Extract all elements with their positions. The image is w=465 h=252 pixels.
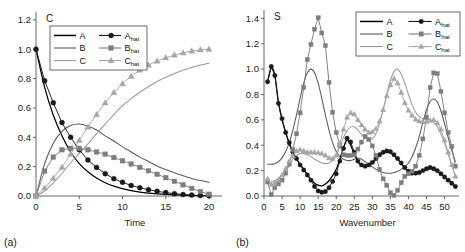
x-tick-label: 5 xyxy=(279,201,284,212)
panel-a-plot: 0.00.20.40.60.81.01.205101520TimeC(a)ABC… xyxy=(0,0,232,252)
y-tick-label: 1.2 xyxy=(18,14,31,25)
chart-panel-a: 0.00.20.40.60.81.01.205101520TimeC(a)ABC… xyxy=(0,0,232,252)
x-tick-label: 15 xyxy=(160,201,171,212)
legend-label-subscript: hat xyxy=(131,35,140,42)
plot-variable-letter: C xyxy=(46,13,53,24)
panel-corner-label: (b) xyxy=(236,236,249,248)
legend-label: A xyxy=(124,31,130,41)
legend-label-subscript: hat xyxy=(131,60,140,67)
y-tick-label: 0.6 xyxy=(246,114,259,125)
y-tick-label: 0.2 xyxy=(18,161,31,172)
legend-label: B xyxy=(387,29,393,39)
legend-label: A xyxy=(435,17,441,27)
legend-label-subscript: hat xyxy=(441,33,450,40)
legend-label: B xyxy=(435,29,441,39)
y-tick-label: 0.2 xyxy=(246,165,259,176)
y-tick-label: 0.0 xyxy=(246,190,259,201)
x-tick-label: 40 xyxy=(403,201,414,212)
x-tick-label: 30 xyxy=(367,201,378,212)
legend: ABCAhatBhatChat xyxy=(50,26,147,70)
x-tick-label: 5 xyxy=(77,201,82,212)
legend-label: B xyxy=(80,43,86,53)
x-tick-label: 20 xyxy=(331,201,342,212)
figure-root: 0.00.20.40.60.81.01.205101520TimeC(a)ABC… xyxy=(0,0,465,252)
y-tick-label: 0.4 xyxy=(246,140,259,151)
x-tick-label: 15 xyxy=(313,201,324,212)
legend-label: A xyxy=(387,17,393,27)
y-tick-label: 0.4 xyxy=(18,132,31,143)
plot-variable-letter: S xyxy=(274,11,281,22)
x-tick-label: 10 xyxy=(117,201,128,212)
y-tick-label: 0.0 xyxy=(18,190,31,201)
x-tick-label: 10 xyxy=(295,201,306,212)
series-line xyxy=(268,67,456,193)
legend-label: A xyxy=(80,31,86,41)
y-tick-label: 1.2 xyxy=(246,38,259,49)
series-b-hat xyxy=(34,146,212,198)
legend-label: C xyxy=(387,42,394,52)
chart-panel-b: 0.00.20.40.60.81.01.21.40510152025303540… xyxy=(232,0,465,252)
x-tick-label: 50 xyxy=(439,201,450,212)
legend: ABCAhatBhatChat xyxy=(356,12,460,56)
x-tick-label: 45 xyxy=(421,201,432,212)
y-tick-label: 0.8 xyxy=(246,89,259,100)
y-tick-label: 1.4 xyxy=(246,13,259,24)
x-tick-label: 20 xyxy=(204,201,215,212)
x-tick-label: 0 xyxy=(33,201,38,212)
series-a-hat xyxy=(265,64,457,194)
x-axis-title: Wavenumber xyxy=(339,217,395,228)
x-tick-label: 35 xyxy=(385,201,396,212)
y-tick-label: 0.6 xyxy=(18,102,31,113)
series-markers xyxy=(34,146,212,198)
y-tick-label: 0.8 xyxy=(18,73,31,84)
panel-corner-label: (a) xyxy=(4,236,17,248)
x-axis-title: Time xyxy=(125,217,146,228)
legend-label: C xyxy=(80,56,87,66)
y-tick-label: 1.0 xyxy=(246,63,259,74)
legend-label-subscript: hat xyxy=(441,21,450,28)
legend-label-subscript: hat xyxy=(131,47,140,54)
panel-b-plot: 0.00.20.40.60.81.01.21.40510152025303540… xyxy=(232,0,465,252)
x-tick-label: 0 xyxy=(261,201,266,212)
x-tick-label: 25 xyxy=(349,201,360,212)
series-markers xyxy=(265,64,457,194)
legend-label-subscript: hat xyxy=(441,46,450,53)
y-tick-label: 1.0 xyxy=(18,44,31,55)
legend-label: B xyxy=(124,43,130,53)
